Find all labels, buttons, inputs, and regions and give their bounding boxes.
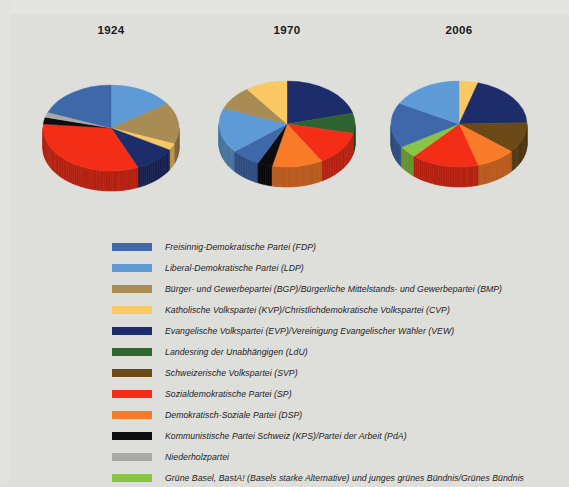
pie-slice-side xyxy=(445,166,447,186)
pie-slice-side xyxy=(450,167,452,187)
pie-slice-side xyxy=(423,161,425,182)
legend-label: Liberal-Demokratische Partei (LDP) xyxy=(165,263,304,273)
legend-row: Evangelische Volkspartei (EVP)/Vereinigu… xyxy=(112,320,562,341)
legend-label: Evangelische Volkspartei (EVP)/Vereinigu… xyxy=(165,326,454,336)
legend-row: Landesring der Unabhängigen (LdU) xyxy=(112,341,562,362)
legend-row: Bürger- und Gewerbepartei (BGP)/Bürgerli… xyxy=(112,278,562,299)
pie-slice-side xyxy=(480,164,482,184)
legend-swatch xyxy=(112,306,152,314)
pie-slice-side xyxy=(483,164,485,185)
pie-slice-side xyxy=(491,161,493,182)
legend-label: Landesring der Unabhängigen (LdU) xyxy=(165,347,308,357)
legend-swatch xyxy=(112,348,152,356)
pie-slice-side xyxy=(462,167,464,187)
pie-slice-side xyxy=(485,163,487,184)
legend-swatch xyxy=(112,432,152,440)
legend-row: Kommunistische Partei Schweiz (KPS)/Part… xyxy=(112,425,562,446)
legend-label: Katholische Volkspartei (KVP)/Christlich… xyxy=(165,305,450,315)
legend-swatch xyxy=(112,285,152,293)
legend: Freisinnig-Demokratische Partei (FDP)Lib… xyxy=(112,236,562,487)
legend-row: Katholische Volkspartei (KVP)/Christlich… xyxy=(112,299,562,320)
pie-slice-side xyxy=(425,161,427,182)
pie-slice-side xyxy=(473,166,475,186)
pie-slice-side xyxy=(457,167,459,187)
pie-slice-side xyxy=(447,166,449,186)
pie-slice-side xyxy=(443,166,445,186)
legend-label: Schweizerische Volkspartei (SVP) xyxy=(165,368,298,378)
pie-slice-side xyxy=(440,165,442,185)
legend-row: Freisinnig-Demokratische Partei (FDP) xyxy=(112,236,562,257)
pie-slice-side xyxy=(493,160,495,181)
pie-slice-side xyxy=(471,166,473,186)
pie-slice-side xyxy=(429,163,431,184)
legend-swatch xyxy=(112,327,152,335)
legend-row: Schweizerische Volkspartei (SVP) xyxy=(112,362,562,383)
pie-slice-side xyxy=(487,163,489,184)
legend-row: Liberal-Demokratische Partei (LDP) xyxy=(112,257,562,278)
pie-slice-side xyxy=(489,162,491,183)
pie-slice-side xyxy=(469,166,471,186)
pie-slice-side xyxy=(438,165,440,185)
pie-slice-side xyxy=(476,165,478,185)
pie-slice-side xyxy=(427,162,429,183)
legend-row: Niederholzpartei xyxy=(112,446,562,467)
legend-swatch xyxy=(112,369,152,377)
legend-row: Grüne Basel, BastA! (Basels starke Alter… xyxy=(112,467,562,487)
legend-label: Bürger- und Gewerbepartei (BGP)/Bürgerli… xyxy=(165,284,502,294)
legend-swatch xyxy=(112,411,152,419)
legend-swatch xyxy=(112,390,152,398)
pie-slice-side xyxy=(452,167,454,187)
legend-label: Freisinnig-Demokratische Partei (FDP) xyxy=(165,242,316,252)
legend-row: Demokratisch-Soziale Partei (DSP) xyxy=(112,404,562,425)
pie-slice-side xyxy=(459,167,461,187)
pie-slice-side xyxy=(436,164,438,184)
legend-row: Sozialdemokratische Partei (SP) xyxy=(112,383,562,404)
legend-swatch xyxy=(112,243,152,251)
legend-label: Demokratisch-Soziale Partei (DSP) xyxy=(165,410,302,420)
legend-swatch xyxy=(112,264,152,272)
pie-slice-side xyxy=(478,165,480,185)
pie-slice-side xyxy=(454,167,456,187)
pie-slice-side xyxy=(432,163,434,184)
legend-label: Grüne Basel, BastA! (Basels starke Alter… xyxy=(165,473,524,483)
legend-label: Sozialdemokratische Partei (SP) xyxy=(165,389,292,399)
legend-swatch xyxy=(112,453,152,461)
legend-swatch xyxy=(112,474,152,482)
pie-slice-side xyxy=(464,167,466,187)
legend-label: Niederholzpartei xyxy=(165,452,229,462)
pie-slice-side xyxy=(466,167,468,187)
pie-slice-side xyxy=(434,164,436,185)
legend-label: Kommunistische Partei Schweiz (KPS)/Part… xyxy=(165,431,407,441)
